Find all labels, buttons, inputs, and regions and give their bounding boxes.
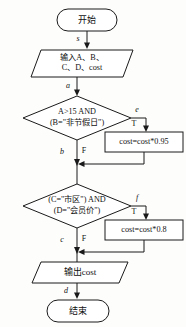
node-input: 输入A、B、 C、D、cost: [31, 50, 133, 77]
node-process2: cost=cost*0.8: [105, 220, 183, 240]
edge-label-f: f: [136, 193, 140, 202]
edge-label-b: b: [60, 147, 64, 156]
decision2-label-line2: (D="会员价"): [54, 205, 101, 215]
edge-label-c: c: [60, 235, 64, 244]
decision2-label-line1: (C="市区") AND: [48, 194, 106, 204]
node-output: 输出cost: [32, 262, 128, 283]
edge-label-s: s: [76, 34, 79, 43]
edge-d-arrowhead: [74, 293, 80, 300]
edge-process1-return-arrowhead: [78, 161, 85, 167]
edge-process2-to-merge: [78, 240, 144, 255]
decision1-false-label: F: [82, 146, 87, 155]
edge-label-e: e: [135, 105, 139, 114]
edge-label-d: d: [64, 286, 69, 295]
edge-label-a: a: [66, 81, 70, 90]
edge-process2-return-arrowhead: [78, 249, 85, 255]
edge-decision1-true: e T: [131, 105, 149, 132]
flowchart-page: 开始 s 输入A、B、 C、D、cost a A>15 AND (B="非节假日…: [0, 0, 186, 327]
edge-start-to-input: s: [76, 31, 90, 49]
flowchart-canvas: 开始 s 输入A、B、 C、D、cost a A>15 AND (B="非节假日…: [0, 0, 186, 327]
edge-decision2-true: f T: [131, 193, 149, 220]
decision2-true-label: T: [132, 207, 137, 216]
edge-e-arrowhead: [143, 126, 149, 133]
decision1-label-line2: (B="非节假日"): [50, 117, 104, 127]
edge-process1-return-path: [82, 152, 144, 164]
process1-label: cost=cost*0.95: [119, 137, 168, 146]
edge-a-arrowhead: [74, 90, 80, 97]
node-process1: cost=cost*0.95: [105, 132, 183, 152]
edge-s-arrowhead: [84, 43, 90, 50]
process2-label: cost=cost*0.8: [121, 225, 166, 234]
edge-input-to-decision1: a: [66, 77, 80, 96]
end-label: 结束: [69, 305, 87, 316]
node-start: 开始: [57, 9, 117, 31]
decision1-true-label: T: [132, 119, 137, 128]
input-label-line2: C、D、cost: [62, 63, 103, 72]
output-label: 输出cost: [64, 266, 97, 277]
decision2-false-label: F: [82, 234, 87, 243]
start-label: 开始: [78, 14, 96, 25]
node-end: 结束: [47, 300, 109, 322]
edge-f-arrowhead: [143, 214, 149, 221]
edge-process2-return-path: [82, 240, 144, 252]
input-label-line1: 输入A、B、: [60, 52, 103, 62]
edge-output-to-end: d: [64, 283, 80, 299]
edge-process1-to-merge: [78, 152, 144, 167]
decision1-label-line1: A>15 AND: [58, 107, 96, 116]
